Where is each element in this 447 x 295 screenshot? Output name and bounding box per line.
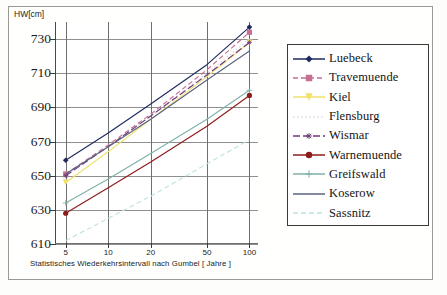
x-axis-line <box>55 243 258 244</box>
gridline-horizontal <box>55 244 258 245</box>
y-tick-label: 670 <box>5 134 51 150</box>
legend-label: Kiel <box>326 90 351 105</box>
legend-item-greifswald[interactable]: Greifswald <box>292 165 428 184</box>
series-line-greifswald <box>66 90 250 203</box>
legend-label: Wismar <box>326 128 369 143</box>
y-tick-label: 690 <box>5 99 51 115</box>
legend-swatch-warnemuende-icon <box>292 148 326 162</box>
y-tick-mark <box>50 210 56 211</box>
series-marker-circle <box>247 93 252 98</box>
legend-item-travemuende[interactable]: Travemuende <box>292 68 428 87</box>
series-marker-diamond <box>306 55 313 62</box>
legend-swatch-kiel-icon <box>292 90 326 104</box>
legend-item-warnemuende[interactable]: Warnemuende <box>292 145 428 164</box>
chart-legend: LuebeckTravemuendeKielFlensburgWismarWar… <box>287 44 429 226</box>
x-tick-label: 10 <box>104 248 113 257</box>
series-line-warnemuende <box>66 95 250 213</box>
legend-label: Luebeck <box>326 51 373 66</box>
y-tick-label: 650 <box>5 168 51 184</box>
series-marker-plus <box>306 171 313 178</box>
legend-swatch-wismar-icon <box>292 129 326 143</box>
legend-item-koserow[interactable]: Koserow <box>292 184 428 203</box>
series-marker-square <box>306 75 313 82</box>
x-tick-mark <box>249 243 250 248</box>
legend-label: Greifswald <box>326 167 386 182</box>
series-marker-asterisk <box>306 133 312 139</box>
legend-item-sassnitz[interactable]: Sassnitz <box>292 203 428 222</box>
x-tick-label: 50 <box>202 248 211 257</box>
series-marker-asterisk <box>63 173 68 178</box>
series-marker-plus <box>63 200 69 206</box>
series-marker-square <box>247 30 252 35</box>
chart-figure: HW[cm] 730710690670650630610 5102050100 … <box>0 0 447 295</box>
y-tick-mark <box>50 107 56 108</box>
y-tick-label: 610 <box>5 236 51 252</box>
series-marker-circle <box>63 211 68 216</box>
legend-item-luebeck[interactable]: Luebeck <box>292 49 428 68</box>
legend-label: Sassnitz <box>326 206 371 221</box>
x-tick-mark <box>66 243 67 248</box>
legend-swatch-koserow-icon <box>292 187 326 201</box>
legend-label: Flensburg <box>326 109 380 124</box>
x-tick-mark <box>151 243 152 248</box>
legend-swatch-sassnitz-icon <box>292 206 326 220</box>
series-marker-asterisk <box>247 40 252 45</box>
legend-swatch-travemuende-icon <box>292 71 326 85</box>
plot-area: 730710690670650630610 5102050100 <box>55 22 258 244</box>
y-tick-mark <box>50 244 56 245</box>
x-tick-mark <box>207 243 208 248</box>
series-marker-triangle <box>63 180 69 186</box>
y-tick-label: 730 <box>5 31 51 47</box>
series-layer <box>55 22 258 244</box>
x-tick-label: 20 <box>146 248 155 257</box>
x-tick-mark <box>108 243 109 248</box>
legend-swatch-greifswald-icon <box>292 167 326 181</box>
x-axis-title: Statistisches Wiederkehrsintervall nach … <box>30 259 231 268</box>
y-tick-mark <box>50 176 56 177</box>
legend-label: Warnemuende <box>326 148 402 163</box>
legend-item-wismar[interactable]: Wismar <box>292 126 428 145</box>
legend-swatch-flensburg-icon <box>292 110 326 124</box>
x-tick-label: 5 <box>63 248 67 257</box>
series-line-travemuende <box>66 32 250 174</box>
y-tick-mark <box>50 73 56 74</box>
series-line-luebeck <box>66 27 250 160</box>
series-marker-circle <box>306 152 313 159</box>
series-marker-diamond <box>63 158 69 164</box>
legend-item-kiel[interactable]: Kiel <box>292 88 428 107</box>
legend-swatch-luebeck-icon <box>292 52 326 66</box>
legend-label: Koserow <box>326 186 375 201</box>
legend-label: Travemuende <box>326 70 398 85</box>
y-tick-mark <box>50 39 56 40</box>
y-axis-title: HW[cm] <box>14 9 44 19</box>
y-tick-label: 630 <box>5 202 51 218</box>
y-tick-label: 710 <box>5 65 51 81</box>
x-tick-label: 100 <box>243 248 256 257</box>
legend-item-flensburg[interactable]: Flensburg <box>292 107 428 126</box>
y-tick-mark <box>50 142 56 143</box>
